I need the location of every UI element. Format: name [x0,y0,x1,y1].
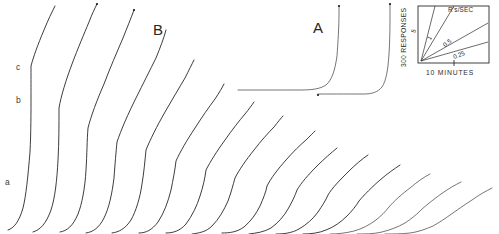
response-curve [357,182,461,234]
curve-label-b: b [16,96,21,105]
event-pip [317,94,319,96]
panel-label-a: A [313,20,324,35]
response-curve [276,155,368,234]
response-curve [60,10,134,232]
response-curve [139,84,224,233]
inset-title: R's/SEC [448,7,473,13]
event-pip-group [96,3,391,96]
response-curve [330,174,430,234]
response-curve [33,4,97,232]
event-pip [96,3,98,5]
response-curve [318,4,390,94]
response-curve [222,131,315,233]
slope-calibration-inset: R's/SEC 300 RESPONSES 10 MINUTES 5 1 0.5… [392,2,498,80]
cumulative-record-figure: B A c b a R's/SEC 300 RESPONSES 10 MINUT… [0,0,499,234]
event-pip [133,9,135,11]
panel-label-b: B [153,22,164,37]
response-curve [249,148,337,234]
response-curve [112,60,194,233]
inset-y-axis-label: 300 RESPONSES [401,6,408,68]
response-curve [303,165,400,234]
curve-label-a: a [5,178,10,187]
response-curve [8,6,55,230]
inset-x-axis-label: 10 MINUTES [404,70,496,77]
response-curve [238,6,339,90]
event-pip [389,3,391,5]
event-pip [338,5,340,7]
curve-label-c: c [16,63,20,72]
